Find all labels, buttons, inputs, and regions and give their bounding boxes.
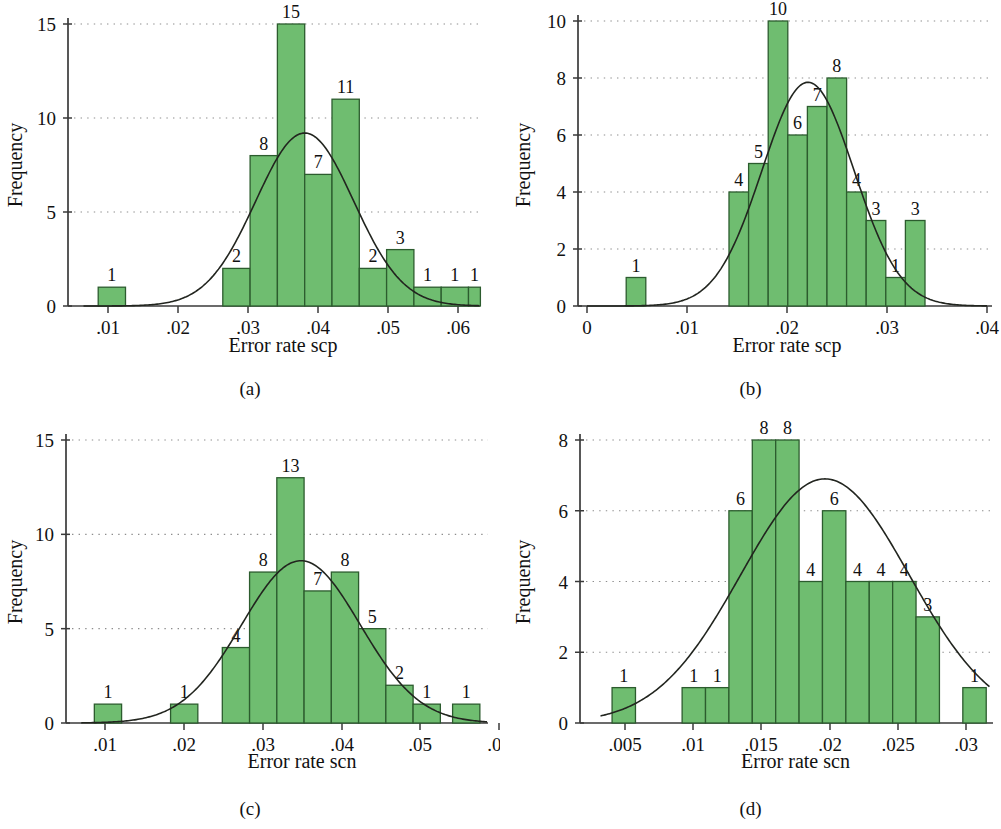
histogram-bar [799,582,822,724]
bar-value-label: 6 [736,489,745,509]
x-axis-title: Error rate scp [229,334,338,357]
x-axis-title: Error rate scn [248,750,357,772]
bar-value-label: 2 [232,246,241,266]
histogram-bar [893,582,916,724]
bar-value-label: 15 [282,2,300,22]
y-axis-title: Frequency [4,123,27,207]
y-axis-tick-label: 15 [35,430,54,451]
x-axis-tick-label: .02 [166,317,190,338]
bar-value-label: 4 [853,560,862,580]
y-axis-tick-label: 10 [37,108,56,129]
histogram-bar [788,135,808,306]
bar-value-label: 4 [734,170,743,190]
y-axis-tick-label: 8 [559,430,569,451]
panel-a: 051015.01.02.03.04.05.061281571123111Err… [0,0,500,410]
panel-a-caption: (a) [0,378,500,400]
bar-value-label: 8 [259,134,268,154]
bar-value-label: 1 [423,265,432,285]
histogram-bar [277,478,304,723]
bar-value-label: 2 [368,246,377,266]
histogram-bar [963,688,986,723]
histogram-bar [749,164,769,307]
x-axis-tick-label: .02 [172,734,196,755]
histogram-bar [222,648,249,723]
histogram-bar [768,21,788,306]
figure-grid: 051015.01.02.03.04.05.061281571123111Err… [0,0,1001,829]
y-axis-tick-label: 0 [47,296,57,317]
y-axis-tick-label: 2 [557,239,567,260]
bar-value-label: 3 [911,199,920,219]
x-axis-tick-label: .01 [96,317,120,338]
bar-value-label: 3 [396,228,405,248]
histogram-bar [827,78,847,306]
histogram-bar [626,278,646,307]
x-axis-tick-label: .03 [954,734,978,755]
bar-value-label: 1 [103,682,112,702]
histogram-bar [682,688,705,723]
panel-b-caption: (b) [500,378,1001,400]
x-axis-tick-label: .06 [446,317,470,338]
histogram-bar [846,582,869,724]
bar-value-label: 1 [619,666,628,686]
bar-value-label: 2 [395,663,404,683]
bar-value-label: 1 [462,682,471,702]
y-axis-title: Frequency [4,540,27,624]
bar-value-label: 4 [900,560,909,580]
histogram-a: 051015.01.02.03.04.05.061281571123111Err… [0,0,500,410]
bar-value-label: 5 [368,607,377,627]
bar-value-label: 1 [470,265,479,285]
histogram-bar [866,221,886,307]
bar-value-label: 13 [281,456,299,476]
bar-value-label: 11 [337,77,354,97]
histogram-b: 02468100.01.02.03.04145106784313Error ra… [500,0,1001,410]
x-axis-tick-label: .025 [881,734,914,755]
histogram-bar [414,287,441,306]
bar-value-label: 10 [769,0,787,19]
y-axis-tick-label: 5 [47,202,57,223]
x-axis-tick-label: .01 [675,317,699,338]
bar-value-label: 4 [806,560,815,580]
y-axis-tick-label: 10 [35,524,54,545]
histogram-bar [223,268,250,306]
y-axis-tick-label: 5 [45,619,55,640]
y-axis-tick-label: 4 [557,182,567,203]
histogram-bar [822,511,845,723]
panel-d: 02468.005.01.015.02.025.031116884644431E… [500,410,1001,829]
histogram-bar [305,174,332,306]
histogram-bar [277,24,304,306]
histogram-bar [847,192,867,306]
histogram-d: 02468.005.01.015.02.025.031116884644431E… [500,410,1001,829]
bar-value-label: 6 [830,489,839,509]
x-axis-tick-label: .06 [487,734,500,755]
x-axis-tick-label: 0 [582,317,592,338]
x-axis-tick-label: .05 [408,734,432,755]
histogram-bar [386,685,413,723]
y-axis-tick-label: 0 [557,296,567,317]
bar-value-label: 8 [259,550,268,570]
x-axis-tick-label: .01 [681,734,705,755]
histogram-bar [413,704,440,723]
bar-value-label: 7 [314,152,323,172]
histogram-c: 051015.01.02.03.04.05.06114813785211Erro… [0,410,500,829]
x-axis-title: Error rate scp [733,334,842,357]
panel-c-caption: (c) [0,798,500,820]
y-axis-tick-label: 0 [559,713,569,734]
bar-value-label: 1 [713,666,722,686]
bar-value-label: 1 [422,682,431,702]
bar-value-label: 8 [832,56,841,76]
histogram-bar [359,268,386,306]
y-axis-tick-label: 4 [559,572,569,593]
y-axis-tick-label: 10 [547,11,566,32]
x-axis-tick-label: .05 [376,317,400,338]
y-axis-tick-label: 6 [559,501,569,522]
bar-value-label: 4 [876,560,885,580]
histogram-bar [869,582,892,724]
histogram-bar [98,287,125,306]
x-axis-tick-label: .005 [608,734,641,755]
bar-value-label: 8 [340,550,349,570]
y-axis-tick-label: 2 [559,642,569,663]
y-axis-title: Frequency [512,540,535,624]
histogram-bar [729,511,752,723]
histogram-bar [331,572,358,723]
bar-value-label: 8 [759,418,768,438]
